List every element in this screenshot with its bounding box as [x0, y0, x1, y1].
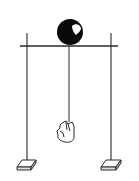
- ball: [57, 19, 83, 45]
- hand-icon: [57, 121, 74, 142]
- apparatus-diagram: [0, 0, 139, 181]
- left-base: [17, 160, 36, 170]
- right-base: [101, 160, 121, 170]
